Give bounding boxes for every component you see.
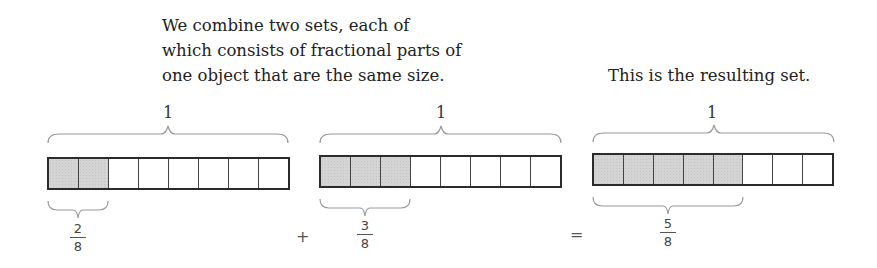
whole-brace-second	[319, 125, 562, 145]
shaded-part	[654, 155, 684, 184]
plus-sign: +	[296, 227, 309, 246]
fraction-second: 3 8	[357, 219, 373, 251]
shaded-part	[684, 155, 714, 184]
fraction-first: 2 8	[70, 222, 86, 254]
empty-part	[743, 155, 773, 184]
fraction-line	[70, 237, 86, 238]
part-brace-first	[47, 200, 109, 220]
fraction-line	[660, 232, 676, 233]
empty-part	[471, 157, 501, 186]
denominator: 8	[660, 235, 676, 249]
shaded-part	[321, 157, 351, 186]
shaded-part	[79, 159, 109, 188]
empty-part	[501, 157, 531, 186]
empty-part	[229, 159, 259, 188]
shaded-part	[594, 155, 624, 184]
shaded-part	[714, 155, 744, 184]
caption-line: which consists of fractional parts of	[162, 38, 462, 63]
empty-part	[441, 157, 471, 186]
caption-line: We combine two sets, each of	[162, 13, 462, 38]
result-caption: This is the resulting set.	[608, 63, 810, 88]
whole-label-second: 1	[436, 103, 446, 122]
fraction-result: 5 8	[660, 217, 676, 249]
whole-label-result: 1	[707, 103, 717, 122]
numerator: 5	[660, 217, 676, 231]
empty-part	[169, 159, 199, 188]
empty-part	[531, 157, 560, 186]
empty-part	[139, 159, 169, 188]
empty-part	[773, 155, 803, 184]
whole-label-first: 1	[163, 103, 173, 122]
caption-line: one object that are the same size.	[162, 63, 462, 88]
numerator: 2	[70, 222, 86, 236]
part-brace-second	[319, 198, 411, 218]
empty-part	[109, 159, 139, 188]
equals-sign: =	[570, 225, 583, 244]
fraction-bar-result	[592, 153, 834, 186]
fraction-bar-second	[319, 155, 562, 188]
fraction-bar-first	[47, 157, 290, 190]
numerator: 3	[357, 219, 373, 233]
shaded-part	[49, 159, 79, 188]
combine-caption: We combine two sets, each of which consi…	[162, 13, 462, 88]
whole-brace-result	[592, 124, 835, 144]
denominator: 8	[357, 237, 373, 251]
shaded-part	[381, 157, 411, 186]
shaded-part	[351, 157, 381, 186]
empty-part	[803, 155, 832, 184]
empty-part	[199, 159, 229, 188]
empty-part	[411, 157, 441, 186]
shaded-part	[624, 155, 654, 184]
fraction-line	[357, 234, 373, 235]
empty-part	[259, 159, 288, 188]
whole-brace-first	[47, 125, 289, 145]
denominator: 8	[70, 240, 86, 254]
part-brace-result	[592, 196, 744, 216]
